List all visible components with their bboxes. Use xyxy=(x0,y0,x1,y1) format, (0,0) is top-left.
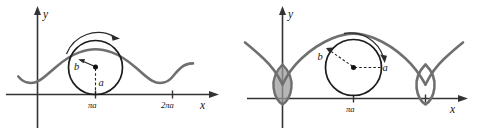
label-a: a xyxy=(99,77,104,88)
x-tick-label-pi-a: πa xyxy=(346,104,355,114)
label-a: a xyxy=(383,62,388,73)
circle-center-dot xyxy=(351,65,356,70)
x-axis-arrow xyxy=(458,95,468,102)
curtate-cycloid-svg: b a πa 2πa y x xyxy=(0,0,244,131)
curtate-cycloid-curve xyxy=(18,49,193,83)
x-tick-label-2pi-a: 2πa xyxy=(161,100,174,110)
y-axis xyxy=(34,6,41,128)
label-b: b xyxy=(318,51,323,62)
y-axis-arrow xyxy=(279,6,286,15)
arm-b-segment xyxy=(326,48,353,67)
x-axis-arrow xyxy=(209,91,219,98)
x-tick-label-pi-a: πa xyxy=(88,100,97,110)
y-axis-arrow xyxy=(34,6,41,15)
circle-center-dot xyxy=(93,65,98,70)
prolate-cycloid-curve-arch xyxy=(283,34,426,85)
prolate-cycloid-curve-right-stub xyxy=(426,43,464,85)
rotation-arrowhead xyxy=(111,34,120,40)
x-axis-label: x xyxy=(199,99,206,111)
y-axis-label: y xyxy=(42,8,49,21)
figure-curtate-cycloid: b a πa 2πa y x xyxy=(0,0,244,131)
label-b: b xyxy=(74,61,79,72)
figure-prolate-cycloid: b a πa y x xyxy=(243,0,487,131)
y-axis-label: y xyxy=(287,8,294,21)
x-axis-label: x xyxy=(449,103,456,115)
arm-b-segment xyxy=(78,59,95,67)
figure-pair: b a πa 2πa y x xyxy=(0,0,487,131)
prolate-cycloid-svg: b a πa y x xyxy=(243,0,487,131)
